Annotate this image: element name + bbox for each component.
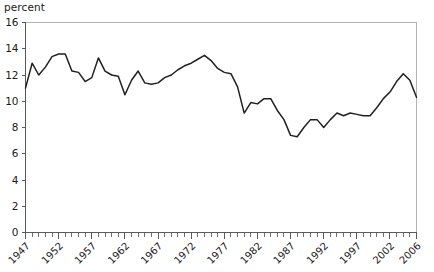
plot-frame [26, 23, 417, 233]
x-tick-label: 1977 [205, 240, 231, 266]
x-tick-label: 1967 [139, 240, 165, 266]
y-tick-label: 16 [5, 16, 19, 28]
x-tick-label: 2006 [397, 240, 423, 266]
y-tick-label: 14 [5, 42, 19, 54]
line-chart: percent 0246810121416 194719521957196219… [0, 0, 434, 272]
x-tick-label: 1997 [337, 240, 363, 266]
x-tick-label: 1947 [6, 240, 32, 266]
x-tick-label: 1982 [238, 240, 264, 266]
data-series [26, 54, 417, 137]
x-axis: 1947195219571962196719721977198219871992… [6, 233, 423, 266]
y-tick-label: 10 [5, 95, 18, 107]
x-tick-label: 1962 [106, 240, 132, 266]
y-axis: 0246810121416 [5, 16, 25, 238]
x-tick-label: 1972 [172, 240, 198, 266]
x-tick-label: 1992 [304, 240, 330, 266]
x-tick-label: 1957 [72, 240, 98, 266]
y-tick-label: 2 [12, 200, 19, 212]
x-tick-label: 1952 [39, 240, 65, 266]
x-tick-label: 1987 [271, 240, 297, 266]
y-tick-label: 4 [12, 174, 19, 186]
x-tick-label: 2002 [371, 240, 397, 266]
plot-canvas: 0246810121416 19471952195719621967197219… [0, 0, 434, 272]
y-tick-label: 0 [12, 226, 19, 238]
series-line [26, 54, 417, 137]
y-tick-label: 8 [12, 121, 19, 133]
y-tick-label: 6 [12, 147, 19, 159]
y-tick-label: 12 [5, 69, 18, 81]
